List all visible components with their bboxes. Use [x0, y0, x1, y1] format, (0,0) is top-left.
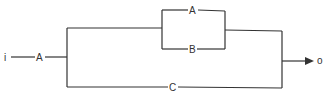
inner-top-wire-right	[198, 10, 225, 11]
upper-join-wire	[225, 30, 282, 31]
bypass-block-c: C	[169, 82, 176, 93]
output-label: o	[317, 55, 323, 66]
diagram-svg: i A C A B o	[0, 0, 326, 103]
block-diagram: i A C A B o	[0, 0, 326, 103]
parallel-block-a: A	[189, 5, 196, 16]
parallel-block-b: B	[189, 44, 196, 55]
bypass-wire-right	[178, 87, 282, 88]
series-block-a: A	[36, 52, 43, 63]
arrow-right-icon	[305, 57, 314, 65]
input-label: i	[4, 52, 6, 63]
